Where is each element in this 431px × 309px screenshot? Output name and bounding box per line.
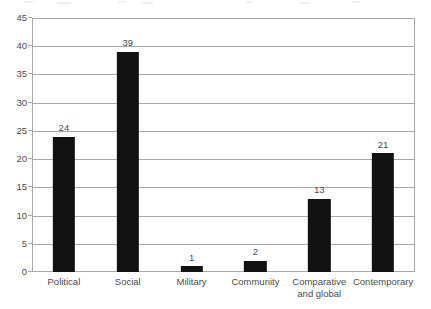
x-axis-category-label: Contemporary <box>344 276 423 288</box>
x-axis-category-line: Contemporary <box>344 276 423 288</box>
bar-slot: 2 <box>224 18 288 272</box>
bar[interactable] <box>308 199 330 272</box>
bar-slot: 21 <box>351 18 415 272</box>
bar-slot: 1 <box>160 18 224 272</box>
bar-slot: 13 <box>287 18 351 272</box>
y-axis-tick-label: 20 <box>16 154 27 164</box>
x-axis-category-line: and global <box>280 288 359 300</box>
scan-artifact <box>246 1 253 3</box>
y-axis-tick-label: 40 <box>16 41 27 51</box>
bar-slot: 39 <box>96 18 160 272</box>
bar[interactable] <box>372 153 394 272</box>
scan-artifact <box>57 2 71 4</box>
scan-artifact <box>352 1 360 3</box>
bar-value-label: 13 <box>314 185 325 195</box>
y-axis-tick-label: 5 <box>22 239 27 249</box>
bar[interactable] <box>180 266 202 272</box>
bar-value-label: 21 <box>378 140 389 150</box>
bar-value-label: 1 <box>189 253 194 263</box>
bars-layer: 2439121321 <box>32 18 415 272</box>
bar[interactable] <box>117 52 139 272</box>
y-axis-tick-label: 45 <box>16 13 27 23</box>
bar-value-label: 39 <box>122 38 133 48</box>
scan-artifact <box>118 1 126 3</box>
bar-slot: 24 <box>32 18 96 272</box>
bar-value-label: 2 <box>253 247 258 257</box>
y-axis-tick-label: 35 <box>16 69 27 79</box>
bar[interactable] <box>53 137 75 272</box>
bar[interactable] <box>244 261 266 272</box>
scan-artifact <box>300 2 310 4</box>
y-axis-tick-label: 30 <box>16 98 27 108</box>
bar-value-label: 24 <box>59 123 70 133</box>
x-axis: PoliticalSocialMilitaryCommunityComparat… <box>32 276 415 309</box>
y-axis-tick-label: 25 <box>16 126 27 136</box>
y-axis: 051015202530354045 <box>0 0 32 309</box>
bar-chart-figure: 051015202530354045 2439121321 PoliticalS… <box>0 0 431 309</box>
scan-artifact <box>142 2 153 4</box>
y-axis-tick-label: 10 <box>16 211 27 221</box>
y-axis-tick-label: 15 <box>16 182 27 192</box>
